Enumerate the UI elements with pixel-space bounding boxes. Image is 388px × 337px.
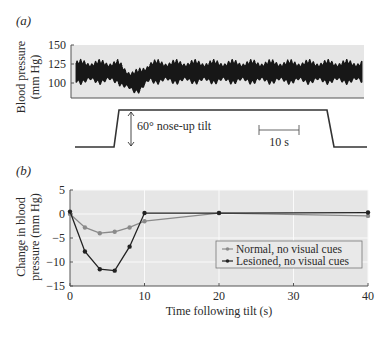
svg-text:5: 5 [59,183,65,197]
svg-text:−10: −10 [46,255,65,269]
panel-a-ylabel-line1: Blood pressure [14,41,28,113]
tilt-profile-line [75,110,367,147]
legend: Normal, no visual cues Lesioned, no visu… [216,241,362,268]
panel-a-label: (a) [16,13,31,28]
panel-b-yticks: 50−5−10−15 [46,183,73,293]
svg-text:−15: −15 [46,279,65,293]
panel-a-ytick: 100 [48,76,66,90]
panel-a-ytick: 125 [48,57,66,71]
panel-a-ytick: 150 [48,38,66,52]
panel-b-xlabel: Time following tilt (s) [166,304,273,318]
svg-text:0: 0 [59,207,65,221]
svg-text:20: 20 [213,289,225,303]
scale-bar-label: 10 s [269,135,289,149]
panel-b-label: (b) [16,163,31,178]
legend-lesioned-label: Lesioned, no visual cues [236,255,350,268]
panel-b-ylabel-line1: Change in blood [14,197,28,276]
svg-text:40: 40 [362,289,374,303]
figure: (a) Blood pressure (mm Hg) 150 125 100 6… [0,0,388,337]
panel-a-ylabel-line2: (mm Hg) [28,55,42,99]
svg-text:30: 30 [288,289,300,303]
svg-text:−5: −5 [52,231,65,245]
panel-b-ylabel-line2: pressure (mm Hg) [28,193,42,280]
svg-text:10: 10 [139,289,151,303]
tilt-label: 60° nose-up tilt [137,119,212,133]
svg-text:0: 0 [67,289,73,303]
